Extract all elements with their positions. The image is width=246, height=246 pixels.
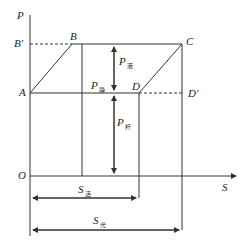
s-plunger-label: S活 [78, 184, 91, 197]
point-b-label: B [70, 31, 77, 42]
s-axis-label: S [222, 182, 228, 193]
point-b-prime-label: B' [14, 38, 23, 49]
point-a-label: A [19, 87, 26, 98]
point-d-label: D [132, 81, 140, 92]
p-static-label: P静 [91, 80, 105, 93]
s-polished-rod-label: S光 [93, 215, 106, 228]
p-fluid-label: P液 [119, 56, 133, 69]
origin-label: O [18, 170, 26, 181]
p-rod-label: P杆 [117, 117, 131, 130]
point-c-label: C [186, 36, 193, 47]
p-axis-label: P [17, 10, 24, 21]
dynamometer-card-diagram: P S O A B B' C D D' P液 P静 P杆 S活 S光 [0, 0, 246, 246]
point-d-prime-label: D' [188, 88, 198, 99]
